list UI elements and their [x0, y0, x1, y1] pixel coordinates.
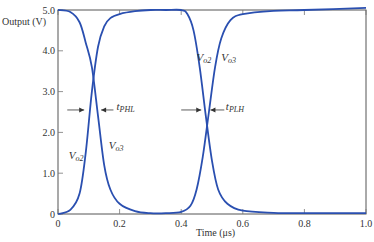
y-tick-label: 4.0: [43, 45, 56, 56]
arrowhead-icon: [101, 107, 106, 112]
curve-vo2: [58, 10, 366, 214]
y-tick-label: 3.0: [43, 86, 56, 97]
annotation-tphl: tPHL: [117, 100, 136, 114]
x-tick-label: 0.2: [113, 218, 126, 229]
y-axis-label: Output (V): [2, 16, 46, 28]
annotation-vo2: Vo2: [197, 51, 212, 65]
x-tick-label: 0: [56, 218, 61, 229]
annotation-vo2: Vo2: [69, 149, 84, 163]
arrowhead-icon: [210, 107, 215, 112]
x-tick-label: 0.6: [237, 218, 250, 229]
annotation-tplh: tPLH: [226, 100, 245, 114]
arrowhead-icon: [79, 107, 84, 112]
annotation-vo3: Vo3: [221, 51, 236, 65]
y-tick-label: 0: [50, 209, 55, 220]
x-tick-label: 1.0: [360, 218, 373, 229]
x-tick-label: 0.8: [298, 218, 311, 229]
y-tick-label: 1.0: [43, 168, 56, 179]
x-tick-label: 0.4: [175, 218, 188, 229]
x-axis-label: Time (μs): [196, 227, 235, 239]
propagation-delay-chart: 00.20.40.60.81.001.02.03.04.05.0 tPHLtPL…: [0, 0, 374, 242]
arrowhead-icon: [196, 107, 201, 112]
y-tick-label: 5.0: [43, 5, 56, 16]
annotation-vo3: Vo3: [109, 139, 124, 153]
plot-frame: [58, 10, 366, 214]
y-tick-label: 2.0: [43, 127, 56, 138]
